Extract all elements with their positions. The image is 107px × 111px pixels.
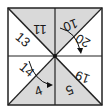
center-point <box>53 54 57 58</box>
folded-square-diagram: 11 10 20 19 5 4 14 13 <box>0 0 107 111</box>
label-13: 13 <box>13 29 34 50</box>
label-11: 11 <box>33 22 47 37</box>
label-14: 14 <box>17 59 38 80</box>
